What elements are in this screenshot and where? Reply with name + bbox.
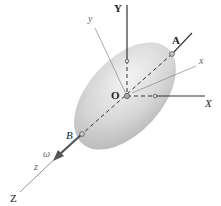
diagram-canvas <box>0 0 221 206</box>
label-B: B <box>66 130 73 141</box>
label-x: x <box>199 56 203 66</box>
label-Z: Z <box>10 193 17 204</box>
label-X: X <box>205 98 212 109</box>
point-A <box>170 52 175 57</box>
label-z: z <box>34 162 38 172</box>
point-O <box>124 93 129 98</box>
Y-axis-pierce-point <box>125 59 129 63</box>
X-axis-pierce-point <box>153 94 157 98</box>
label-Y: Y <box>114 3 122 14</box>
label-A: A <box>172 35 180 46</box>
point-B <box>80 132 85 137</box>
label-omega: ω <box>43 149 50 159</box>
label-y: y <box>88 14 92 24</box>
label-O: O <box>111 90 120 101</box>
